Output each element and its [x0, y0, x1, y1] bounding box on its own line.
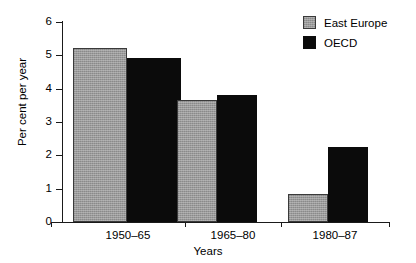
- y-axis-tick-label: 5: [34, 49, 52, 61]
- y-axis-tick: [56, 189, 62, 190]
- x-axis-title: Years: [0, 245, 416, 257]
- y-axis-tick-label: 2: [34, 149, 52, 161]
- gray-swatch-icon: [303, 16, 316, 29]
- bar-east-europe-1965-80: [177, 100, 217, 222]
- chart-legend: East Europe OECD: [303, 14, 387, 54]
- x-axis-tick: [389, 222, 390, 227]
- bar-oecd-1950-65: [127, 58, 181, 222]
- y-axis-tick-label: 1: [34, 183, 52, 195]
- bar-chart: 6 5 4 3 2 1 0 Per cent per year 1950–65 …: [0, 0, 416, 263]
- x-axis-category-label-3: 1980–87: [280, 229, 390, 241]
- x-axis-tick: [185, 222, 186, 227]
- y-axis-tick-label: 3: [34, 116, 52, 128]
- y-axis-tick: [56, 22, 62, 23]
- y-axis-tick-label: 0: [34, 216, 52, 228]
- legend-label-oecd: OECD: [324, 37, 357, 49]
- bar-oecd-1965-80: [217, 95, 257, 222]
- bar-east-europe-1980-87: [288, 194, 328, 222]
- y-axis-tick-label: 4: [34, 83, 52, 95]
- x-axis-tick: [51, 222, 52, 227]
- x-axis-tick: [281, 222, 282, 227]
- black-swatch-icon: [303, 36, 316, 49]
- bar-oecd-1980-87: [328, 147, 368, 222]
- y-axis-tick: [56, 55, 62, 56]
- bar-east-europe-1950-65: [73, 48, 127, 222]
- y-axis-tick: [56, 122, 62, 123]
- y-axis-tick: [56, 89, 62, 90]
- legend-item-oecd: OECD: [303, 34, 387, 51]
- y-axis-title: Per cent per year: [16, 42, 28, 162]
- x-axis-category-label-1: 1950–65: [73, 229, 183, 241]
- x-axis-line: [51, 222, 390, 223]
- x-axis-category-label-2: 1965–80: [178, 229, 288, 241]
- legend-item-east-europe: East Europe: [303, 14, 387, 31]
- y-axis-tick-label: 6: [34, 16, 52, 28]
- y-axis-tick: [56, 155, 62, 156]
- legend-label-east-europe: East Europe: [324, 17, 387, 29]
